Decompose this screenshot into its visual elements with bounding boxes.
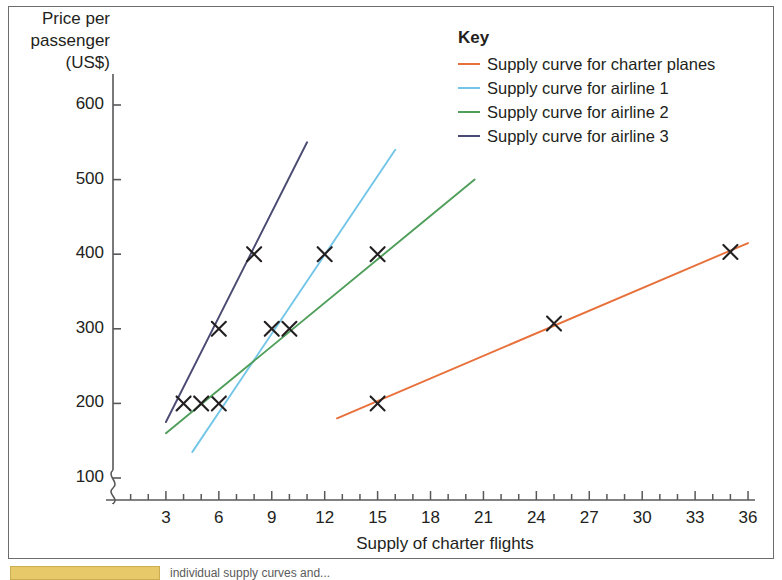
y-tick-label: 600: [42, 94, 104, 114]
legend-color-swatch: [458, 111, 480, 113]
series-line-4: [166, 142, 307, 422]
legend-color-swatch: [458, 135, 480, 137]
legend-item-label: Supply curve for airline 2: [487, 103, 669, 122]
x-tick-label: 9: [252, 508, 292, 528]
supply-curve-chart: Price per passenger (US$) Supply of char…: [0, 0, 782, 580]
y-tick-label: 500: [42, 169, 104, 189]
x-tick-label: 21: [463, 508, 503, 528]
legend-item-label: Supply curve for charter planes: [487, 55, 715, 74]
x-tick-label: 30: [622, 508, 662, 528]
series-line-3: [166, 180, 475, 434]
y-tick-label: 200: [42, 392, 104, 412]
y-tick-label: 400: [42, 243, 104, 263]
series-line-1: [337, 243, 748, 418]
y-tick-label: 300: [42, 318, 104, 338]
x-tick-label: 36: [728, 508, 768, 528]
x-tick-label: 12: [305, 508, 345, 528]
data-point-marker: [318, 247, 332, 261]
x-tick-label: 24: [516, 508, 556, 528]
legend-color-swatch: [458, 87, 480, 89]
legend-item-1: Supply curve for charter planes: [458, 53, 768, 75]
legend-rows: Supply curve for charter planesSupply cu…: [458, 53, 768, 147]
axis-break-symbol: [111, 470, 115, 504]
x-tick-label: 6: [199, 508, 239, 528]
legend-item-2: Supply curve for airline 1: [458, 77, 768, 99]
legend-item-label: Supply curve for airline 3: [487, 127, 669, 146]
x-tick-label: 18: [411, 508, 451, 528]
x-tick-label: 15: [358, 508, 398, 528]
legend-color-swatch: [458, 63, 480, 65]
legend-title: Key: [458, 28, 768, 48]
legend-item-3: Supply curve for airline 2: [458, 101, 768, 123]
data-point-marker: [177, 396, 191, 410]
data-point-marker: [212, 396, 226, 410]
data-point-marker: [194, 396, 208, 410]
x-tick-label: 27: [569, 508, 609, 528]
y-tick-label: 100: [42, 467, 104, 487]
legend-item-label: Supply curve for airline 1: [487, 79, 669, 98]
x-tick-label: 3: [146, 508, 186, 528]
page-root: individual supply curves and... Price pe…: [0, 0, 782, 580]
x-tick-label: 33: [675, 508, 715, 528]
legend-item-4: Supply curve for airline 3: [458, 125, 768, 147]
chart-legend: Key Supply curve for charter planesSuppl…: [458, 28, 768, 149]
